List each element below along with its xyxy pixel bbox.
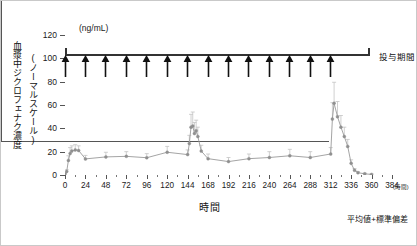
x-tick-minor	[177, 175, 178, 177]
dose-arrow	[326, 55, 335, 77]
data-point	[74, 148, 77, 151]
x-tick-minor	[198, 175, 199, 177]
dose-arrow	[285, 55, 294, 77]
data-point	[188, 142, 191, 145]
data-point	[268, 156, 271, 159]
data-series	[65, 82, 374, 175]
x-tick	[208, 175, 209, 179]
dose-arrow	[183, 55, 192, 77]
y-tick-label: 60	[23, 101, 57, 109]
dose-arrow	[163, 55, 172, 77]
x-tick	[310, 175, 311, 179]
x-axis-title: 時間	[1, 199, 417, 214]
x-tick-minor	[320, 175, 321, 177]
x-tick	[229, 175, 230, 179]
data-point	[309, 156, 312, 159]
data-point	[125, 155, 128, 158]
y-tick-label: 0	[23, 171, 57, 179]
dosing-period-bar	[65, 54, 370, 56]
dose-arrow	[81, 55, 90, 77]
data-point	[329, 153, 332, 156]
y-axis-unit-label: (ng/mL)	[79, 23, 108, 33]
data-point	[247, 157, 250, 160]
x-tick	[65, 175, 66, 179]
data-point	[288, 154, 291, 157]
x-tick	[106, 175, 107, 179]
data-point	[67, 159, 70, 162]
y-tick-label: 120	[23, 31, 57, 39]
x-tick-minor	[280, 175, 281, 177]
x-tick-minor	[116, 175, 117, 177]
x-tick-minor	[382, 175, 383, 177]
x-tick	[290, 175, 291, 179]
x-tick	[372, 175, 373, 179]
x-tick	[392, 175, 393, 179]
data-point	[207, 157, 210, 160]
x-tick-minor	[218, 175, 219, 177]
dose-arrow	[306, 55, 315, 77]
data-point	[84, 157, 87, 160]
y-tick-label: 100	[23, 54, 57, 62]
data-point	[339, 126, 342, 129]
x-tick	[126, 175, 127, 179]
x-tick	[269, 175, 270, 179]
data-point	[331, 118, 334, 121]
data-point	[370, 173, 373, 175]
x-tick-minor	[96, 175, 97, 177]
x-tick-minor	[75, 175, 76, 177]
dose-arrow	[244, 55, 253, 77]
data-point	[195, 129, 198, 132]
data-point	[353, 169, 356, 172]
x-tick	[85, 175, 86, 179]
x-tick	[249, 175, 250, 179]
dose-arrow	[122, 55, 131, 77]
y-tick-label: 40	[23, 124, 57, 132]
x-tick-minor	[137, 175, 138, 177]
chart-figure: (ng/mL) 血漿中ジクロフェナク濃度 (ノーマルスケール) 02040608…	[0, 0, 417, 246]
data-point	[186, 153, 189, 156]
x-tick	[147, 175, 148, 179]
y-tick-label: 20	[23, 148, 57, 156]
data-point	[191, 125, 194, 128]
series-line	[65, 103, 372, 174]
x-tick-minor	[341, 175, 342, 177]
x-tick	[351, 175, 352, 179]
data-point	[77, 149, 80, 152]
dosing-period-cap-right	[368, 48, 370, 56]
dose-arrow	[142, 55, 151, 77]
data-point	[227, 160, 230, 163]
dose-arrow	[265, 55, 274, 77]
data-point	[363, 172, 366, 175]
x-axis-unit-label: (時間)	[393, 183, 409, 191]
x-tick-minor	[300, 175, 301, 177]
dose-arrow	[204, 55, 213, 77]
data-point	[200, 150, 203, 153]
x-tick-minor	[239, 175, 240, 177]
dose-arrow	[101, 55, 110, 77]
x-tick	[167, 175, 168, 179]
dose-arrow	[61, 55, 70, 77]
data-point	[70, 150, 73, 153]
data-point	[346, 145, 349, 148]
x-tick-minor	[259, 175, 260, 177]
x-tick-minor	[157, 175, 158, 177]
data-point	[166, 151, 169, 154]
x-tick	[188, 175, 189, 179]
figure-footnote: 平均値+標準偏差	[347, 213, 408, 224]
y-axis-line	[1, 1, 2, 141]
data-point	[356, 171, 359, 174]
data-point	[333, 102, 336, 105]
dose-arrow	[224, 55, 233, 77]
data-point	[350, 162, 353, 165]
data-point	[196, 135, 199, 138]
data-point	[145, 156, 148, 159]
dosing-period-label: 投与期間	[379, 50, 415, 62]
y-tick-label: 80	[23, 78, 57, 86]
data-point	[343, 135, 346, 138]
x-tick-minor	[361, 175, 362, 177]
data-point	[193, 132, 196, 135]
x-tick	[331, 175, 332, 179]
data-point	[104, 155, 107, 158]
data-point	[65, 170, 68, 173]
data-point	[336, 115, 339, 118]
